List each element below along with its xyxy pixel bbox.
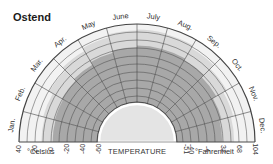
month-label: Apr. — [52, 34, 68, 49]
month-label: Feb. — [13, 85, 27, 102]
celsius-tick: -40 — [79, 144, 86, 154]
celsius-tick: -60 — [95, 144, 102, 154]
month-label: Dec. — [257, 117, 268, 133]
month-label: July — [146, 11, 161, 22]
month-label: Jan. — [6, 118, 17, 133]
month-label: Oct. — [230, 57, 246, 73]
fahrenheit-tick: 104 — [252, 143, 259, 155]
temperature-axis-label: TEMPERATURE — [108, 147, 166, 156]
month-label: Nov. — [247, 85, 261, 102]
celsius-tick: -20 — [63, 144, 70, 154]
fahrenheit-tick: 68 — [236, 145, 243, 153]
radial-temperature-chart: Jan.Feb.Mar.Apr.MayJuneJulyAug.Sep.Oct.N… — [0, 0, 273, 164]
celsius-unit-label: °Celsius — [27, 147, 55, 156]
month-label: June — [112, 11, 129, 22]
month-label: Aug. — [177, 18, 195, 32]
month-label: May — [80, 18, 97, 32]
chart-title: Ostend — [13, 11, 51, 23]
celsius-tick: 40 — [15, 145, 22, 153]
fahrenheit-unit-label: °Fahrenheit — [195, 147, 234, 156]
